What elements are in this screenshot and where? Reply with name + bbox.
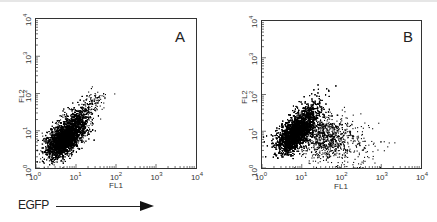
scatter-plot-b bbox=[261, 20, 422, 169]
y-tick-label: 100 bbox=[248, 165, 259, 177]
y-tick-label: 104 bbox=[22, 14, 33, 26]
y-tick-label: 104 bbox=[248, 16, 259, 28]
x-tick-label: 103 bbox=[376, 171, 388, 182]
panel-label-a: A bbox=[175, 28, 185, 45]
x-axis-label-b: FL1 bbox=[334, 182, 348, 191]
x-tick-label: 101 bbox=[295, 171, 307, 182]
right-arrow-icon bbox=[140, 201, 154, 211]
arrow-shaft bbox=[56, 206, 142, 207]
x-tick-label: 102 bbox=[335, 171, 347, 182]
x-tick-label: 102 bbox=[110, 171, 122, 182]
egfp-label: EGFP bbox=[18, 198, 49, 212]
top-border bbox=[0, 0, 437, 2]
x-tick-label: 101 bbox=[69, 171, 81, 182]
y-tick-label: 100 bbox=[22, 165, 33, 177]
y-tick-label: 101 bbox=[22, 127, 33, 139]
panel-label-b: B bbox=[403, 28, 413, 45]
y-tick-label: 101 bbox=[248, 128, 259, 140]
scatter-points-a bbox=[36, 19, 196, 168]
x-tick-label: 104 bbox=[191, 171, 203, 182]
y-tick-label: 102 bbox=[22, 89, 33, 101]
scatter-points-b bbox=[262, 21, 421, 168]
y-tick-label: 103 bbox=[248, 53, 259, 65]
x-tick-label: 104 bbox=[416, 171, 428, 182]
x-axis-label-a: FL1 bbox=[109, 181, 123, 190]
y-tick-label: 103 bbox=[22, 52, 33, 64]
scatter-plot-a bbox=[35, 18, 197, 169]
x-tick-label: 103 bbox=[150, 171, 162, 182]
y-tick-label: 102 bbox=[248, 90, 259, 102]
